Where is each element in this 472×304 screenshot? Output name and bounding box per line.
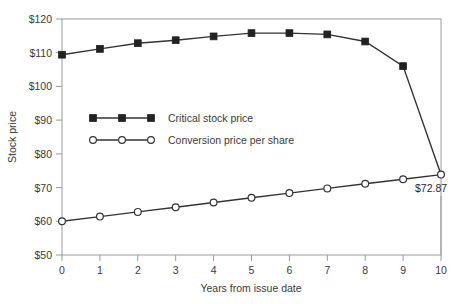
data-point-conversion-10 xyxy=(438,171,445,178)
data-point-critical-3 xyxy=(172,37,179,44)
chart-figure: $120 $110 $100 $90 $80 $70 $60 $50 0 xyxy=(0,0,472,304)
x-tick-label-5: 5 xyxy=(249,264,255,276)
y-tick-label-50: $50 xyxy=(34,249,52,261)
annotation-value-label: $72.87 xyxy=(415,182,447,194)
data-point-critical-0 xyxy=(59,51,66,58)
x-tick-label-4: 4 xyxy=(211,264,217,276)
data-point-critical-9 xyxy=(400,63,407,70)
legend-marker-square-3 xyxy=(148,115,155,122)
data-point-conversion-3 xyxy=(172,204,179,211)
chart-canvas: $120 $110 $100 $90 $80 $70 $60 $50 0 xyxy=(0,0,472,304)
series-critical-stock-price-markers xyxy=(59,30,407,70)
data-point-conversion-8 xyxy=(362,180,369,187)
data-point-critical-2 xyxy=(134,40,141,47)
x-tick-label-3: 3 xyxy=(173,264,179,276)
x-tick-label-1: 1 xyxy=(97,264,103,276)
data-point-conversion-9 xyxy=(400,176,407,183)
x-axis-ticks xyxy=(62,255,441,261)
legend-item-critical-stock-price: Critical stock price xyxy=(90,112,254,124)
x-tick-label-6: 6 xyxy=(286,264,292,276)
data-point-critical-4 xyxy=(210,33,217,40)
data-point-conversion-6 xyxy=(286,190,293,197)
data-point-critical-1 xyxy=(97,46,104,53)
y-tick-label-80: $80 xyxy=(34,148,52,160)
y-axis-title: Stock price xyxy=(6,111,18,163)
x-axis-title: Years from issue date xyxy=(200,282,301,294)
data-point-critical-7 xyxy=(324,31,331,38)
x-tick-label-10: 10 xyxy=(435,264,447,276)
legend-label-conversion-price: Conversion price per share xyxy=(168,134,294,146)
y-tick-label-70: $70 xyxy=(34,182,52,194)
series-conversion-price-markers xyxy=(59,171,445,225)
series-critical-stock-price-line xyxy=(62,33,441,175)
data-point-conversion-7 xyxy=(324,185,331,192)
y-tick-label-90: $90 xyxy=(34,114,52,126)
legend-marker-circle-3 xyxy=(148,137,155,144)
x-tick-label-2: 2 xyxy=(135,264,141,276)
data-point-conversion-0 xyxy=(59,218,66,225)
data-point-critical-5 xyxy=(248,30,255,37)
y-axis-tick-labels: $120 $110 $100 $90 $80 $70 $60 $50 xyxy=(29,13,53,261)
x-tick-label-0: 0 xyxy=(59,264,65,276)
legend-marker-circle-2 xyxy=(119,137,126,144)
data-point-critical-6 xyxy=(286,30,293,37)
y-tick-label-110: $110 xyxy=(29,47,52,59)
x-tick-label-7: 7 xyxy=(324,264,330,276)
x-axis-tick-labels: 0 1 2 3 4 5 6 7 8 9 10 xyxy=(59,264,447,276)
y-tick-label-60: $60 xyxy=(34,215,52,227)
legend-marker-circle-1 xyxy=(90,137,97,144)
y-tick-label-120: $120 xyxy=(29,13,53,25)
data-point-conversion-2 xyxy=(134,209,141,216)
data-point-conversion-4 xyxy=(210,199,217,206)
legend-marker-square-1 xyxy=(90,115,97,122)
data-point-conversion-5 xyxy=(248,194,255,201)
data-point-critical-8 xyxy=(362,38,369,45)
chart-legend: Critical stock price Conversion price pe… xyxy=(90,112,295,146)
annotation-final-value: $72.87 xyxy=(415,182,447,255)
legend-marker-square-2 xyxy=(119,115,126,122)
y-tick-label-100: $100 xyxy=(29,80,53,92)
legend-item-conversion-price: Conversion price per share xyxy=(90,134,295,146)
x-tick-label-8: 8 xyxy=(362,264,368,276)
legend-label-critical-stock-price: Critical stock price xyxy=(168,112,253,124)
x-tick-label-9: 9 xyxy=(400,264,406,276)
data-point-conversion-1 xyxy=(97,213,104,220)
